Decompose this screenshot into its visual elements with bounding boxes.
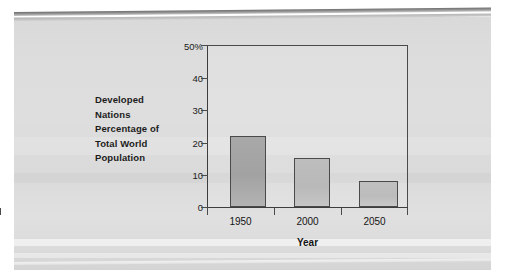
bar-2000[interactable] [294,158,330,207]
y-axis-ticks: 50% 40 30 20 10 0 [168,0,203,279]
x-tick-label: 2050 [341,216,408,227]
y-tick-mark [201,143,208,144]
x-tick-mark [207,208,208,215]
y-tick-mark [201,110,208,111]
y-tick-mark [201,175,208,176]
y-tick-label: 50% [184,41,203,52]
bar-2050[interactable] [359,181,398,207]
x-axis-title: Year [207,237,408,248]
y-tick-mark [201,78,208,79]
screenshot-root: Developed Nations Percentage of Total Wo… [0,0,505,279]
x-tick-label: 1950 [207,216,274,227]
x-tick-label: 2000 [274,216,341,227]
x-tick-mark [407,208,408,215]
x-axis-line [207,207,408,208]
bar-chart: Developed Nations Percentage of Total Wo… [0,0,505,279]
bar-1950[interactable] [230,136,266,207]
y-tick-mark [201,45,208,46]
x-tick-mark [341,208,342,215]
y-axis-line [207,45,208,208]
x-tick-mark [274,208,275,215]
